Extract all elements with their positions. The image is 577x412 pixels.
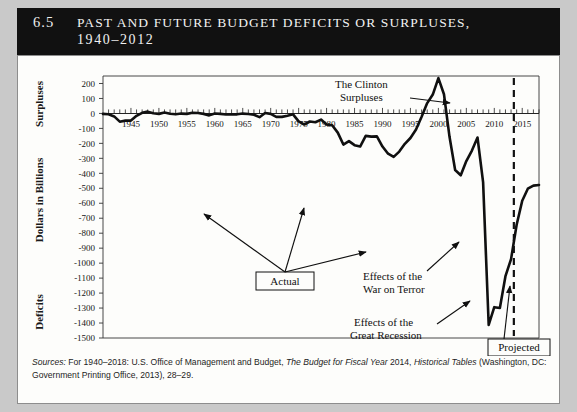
y-tick-label: -1200 (74, 288, 95, 298)
y-axis-label-dollars: Dollars in Billions (33, 145, 45, 255)
actual-arrow-left (204, 214, 285, 272)
y-tick-label: -1000 (74, 258, 95, 268)
annotation-actual: Actual (270, 275, 299, 287)
x-tick-label: 1960 (206, 119, 225, 129)
y-tick-label: 0 (91, 109, 96, 119)
y-tick-label: -200 (79, 139, 96, 149)
y-tick-label: -900 (79, 243, 96, 253)
source-italic-a: The Budget for Fiscal Year (286, 357, 388, 367)
y-tick-label: -1100 (74, 273, 95, 283)
figure-panel: Surpluses Dollars in Billions Deficits 2… (17, 55, 560, 404)
y-tick-label: -100 (79, 124, 96, 134)
source-note: Sources: For 1940–2018: U.S. Office of M… (32, 356, 548, 382)
figure-number: 6.5 (33, 14, 77, 31)
annotation-recession-line1: Effects of the (354, 316, 413, 328)
y-axis-label-surpluses: Surpluses (33, 69, 45, 139)
budget-deficit-line-chart: 2001000-100-200-300-400-500-600-700-800-… (18, 56, 561, 356)
annotation-war-line2: War on Terror (363, 283, 425, 295)
source-text-a: For 1940–2018: U.S. Office of Management… (66, 357, 286, 367)
actual-arrow-right (285, 252, 366, 272)
x-tick-label: 1970 (262, 119, 281, 129)
war-on-terror-arrow (427, 242, 459, 271)
y-tick-label: 200 (82, 79, 96, 89)
x-tick-label: 1985 (346, 119, 365, 129)
y-tick-label: -600 (79, 198, 96, 208)
x-tick-label: 2000 (429, 119, 448, 129)
source-text-b: 2014, (388, 357, 414, 367)
y-tick-label: -1400 (74, 318, 95, 328)
deficit-surplus-line (103, 78, 539, 325)
annotation-projected: Projected (498, 341, 540, 353)
x-tick-label: 1965 (234, 119, 253, 129)
great-recession-arrow (437, 301, 470, 324)
figure-page: 6.5 Past and Future Budget Deficits or S… (0, 0, 577, 412)
actual-arrow-up (285, 208, 304, 272)
chart-area: Surpluses Dollars in Billions Deficits 2… (18, 56, 561, 356)
source-label: Sources: (32, 357, 66, 367)
y-tick-label: -400 (79, 169, 96, 179)
annotation-recession-line2: Great Recession (350, 329, 422, 341)
figure-title: Past and Future Budget Deficits or Surpl… (77, 14, 470, 48)
y-axis-label-deficits: Deficits (33, 274, 45, 350)
x-tick-label: 2010 (485, 119, 504, 129)
y-tick-label: -500 (79, 183, 96, 193)
x-tick-label: 1955 (178, 119, 197, 129)
y-tick-label: -800 (79, 228, 96, 238)
y-tick-label: -1500 (74, 333, 95, 343)
annotation-war-line1: Effects of the (363, 270, 422, 282)
x-tick-label: 1990 (373, 119, 392, 129)
y-tick-label: -300 (79, 154, 96, 164)
x-tick-label: 1950 (150, 119, 169, 129)
y-tick-label: -700 (79, 213, 96, 223)
annotation-clinton-line1: The Clinton (335, 78, 388, 90)
figure-title-line1: Past and Future Budget Deficits or Surpl… (77, 15, 470, 30)
figure-title-line2: 1940–2012 (77, 31, 470, 48)
projected-arrow (504, 286, 510, 339)
x-tick-label: 2005 (457, 119, 476, 129)
figure-title-bar: 6.5 Past and Future Budget Deficits or S… (17, 8, 560, 55)
y-tick-label: -1300 (74, 303, 95, 313)
source-italic-b: Historical Tables (414, 357, 477, 367)
x-tick-label: 2015 (513, 119, 532, 129)
y-tick-label: 100 (82, 94, 96, 104)
annotation-clinton-line2: Surpluses (340, 91, 383, 103)
